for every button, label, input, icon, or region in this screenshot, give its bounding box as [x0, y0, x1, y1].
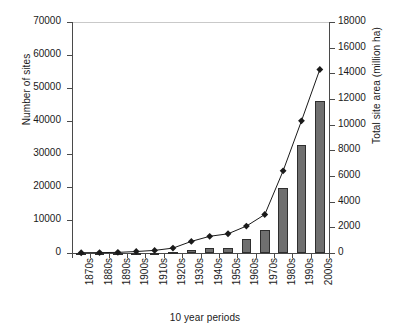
y-axis-right-tick — [330, 125, 335, 126]
y-axis-right-tick-label: 8000 — [338, 144, 360, 154]
bar — [187, 250, 197, 253]
bar — [76, 253, 86, 255]
y-axis-right-tick — [330, 150, 335, 151]
y-axis-right-tick — [330, 22, 335, 23]
y-axis-left-tick-label: 0 — [55, 247, 61, 257]
y-axis-left-tick — [67, 22, 72, 23]
y-axis-right-tick-label: 2000 — [338, 221, 360, 231]
bar — [315, 101, 325, 253]
x-axis-tick-label: 1960s — [250, 258, 260, 285]
y-axis-left-title: Number of sites — [21, 20, 32, 160]
x-axis-tick-label: 1980s — [287, 258, 297, 285]
y-axis-right-tick-label: 14000 — [338, 67, 366, 77]
bar — [95, 253, 105, 255]
x-axis-tick-label: 2000s — [324, 258, 334, 285]
y-axis-right-tick-label: 0 — [338, 247, 344, 257]
y-axis-left-tick-label: 40000 — [33, 115, 61, 125]
bar — [278, 188, 288, 253]
bar — [297, 145, 307, 253]
y-axis-left-tick — [67, 187, 72, 188]
y-axis-left-tick-label: 60000 — [33, 49, 61, 59]
bar — [168, 252, 178, 254]
x-axis-tick-label: 1970s — [269, 258, 279, 285]
chart-figure: Number of sites Total site area (million… — [0, 0, 410, 332]
y-axis-right-tick — [330, 227, 335, 228]
y-axis-left-tick — [67, 154, 72, 155]
bar — [260, 230, 270, 253]
y-axis-right-tick — [330, 99, 335, 100]
y-axis-right-tick — [330, 48, 335, 49]
y-axis-left-tick-label: 70000 — [33, 16, 61, 26]
x-axis-title: 10 year periods — [0, 312, 410, 323]
plot-area — [72, 22, 329, 253]
x-axis-tick-label: 1900s — [140, 258, 150, 285]
x-axis-tick-label: 1920s — [177, 258, 187, 285]
y-axis-left-tick — [67, 220, 72, 221]
bar — [242, 239, 252, 253]
y-axis-left-tick — [67, 121, 72, 122]
x-axis-tick-label: 1930s — [195, 258, 205, 285]
y-axis-left-line — [72, 22, 73, 254]
bar — [205, 248, 215, 253]
x-axis-tick-label: 1890s — [122, 258, 132, 285]
x-axis-tick-label: 1950s — [232, 258, 242, 285]
y-axis-left-tick-label: 20000 — [33, 181, 61, 191]
bar — [223, 248, 233, 253]
y-axis-right-tick-label: 6000 — [338, 170, 360, 180]
y-axis-right-tick-label: 18000 — [338, 16, 366, 26]
y-axis-right-tick — [330, 202, 335, 203]
y-axis-right-tick — [330, 253, 335, 254]
bar — [131, 253, 141, 255]
y-axis-right-tick-label: 10000 — [338, 119, 366, 129]
y-axis-right-tick-label: 4000 — [338, 196, 360, 206]
y-axis-right-tick-label: 16000 — [338, 42, 366, 52]
x-axis-tick — [72, 253, 73, 258]
y-axis-left-tick-label: 30000 — [33, 148, 61, 158]
y-axis-left-tick-label: 10000 — [33, 214, 61, 224]
bar — [150, 253, 160, 255]
x-axis-tick-label: 1880s — [104, 258, 114, 285]
x-axis-tick-label: 1910s — [159, 258, 169, 285]
x-axis-tick-label: 1990s — [305, 258, 315, 285]
x-axis-tick-label: 1940s — [214, 258, 224, 285]
y-axis-left-tick — [67, 88, 72, 89]
y-axis-right-tick — [330, 176, 335, 177]
y-axis-left-tick — [67, 55, 72, 56]
bar — [113, 253, 123, 255]
y-axis-left-tick-label: 50000 — [33, 82, 61, 92]
y-axis-right-line — [329, 22, 330, 254]
x-axis-tick-label: 1870s — [85, 258, 95, 285]
y-axis-right-tick-label: 12000 — [338, 93, 366, 103]
y-axis-right-title: Total site area (million ha) — [371, 6, 382, 166]
y-axis-right-tick — [330, 73, 335, 74]
